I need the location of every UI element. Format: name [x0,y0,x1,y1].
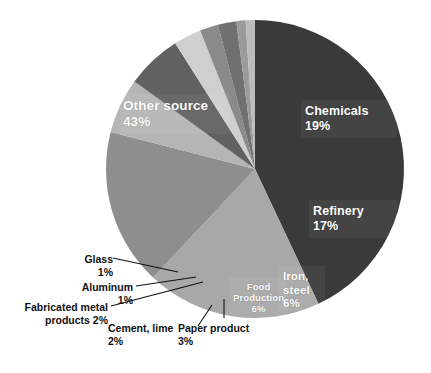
slice-callout-paper-product: Paper product 3% [178,322,268,347]
slice-label-iron-steel-value: 6% [283,297,300,309]
slice-label-food-production: FoodProduction6% [233,281,284,315]
slice-label-chemicals-name: Chemicals [305,104,368,118]
slice-label-iron-steel-name1: Iron, [283,270,308,282]
slice-label-refinery: Refinery17% [313,204,364,234]
slice-callout-fabricated-metal: Fabricated metal products 2% [6,301,108,326]
slice-label-iron-steel-name2: steel [283,284,310,296]
slice-label-other-source-value: 43% [123,114,150,129]
slice-callout-glass: Glass 1% [61,253,113,278]
slice-label-food-production-value: 6% [252,303,266,314]
slice-label-food-production-name2: Production [233,292,284,303]
pie-chart-figure: Other source43% Chemicals19% Refinery17%… [0,0,431,373]
slice-label-food-production-name1: Food [247,281,271,292]
slice-label-other-source-name: Other source [123,98,208,113]
slice-label-refinery-value: 17% [313,219,338,233]
slice-label-refinery-name: Refinery [313,204,364,218]
pie-slice-group [106,20,404,318]
slice-label-chemicals: Chemicals19% [305,104,368,134]
slice-label-iron-steel: Iron,steel6% [283,270,310,311]
slice-label-chemicals-value: 19% [305,119,330,133]
slice-label-other-source: Other source43% [123,98,208,130]
